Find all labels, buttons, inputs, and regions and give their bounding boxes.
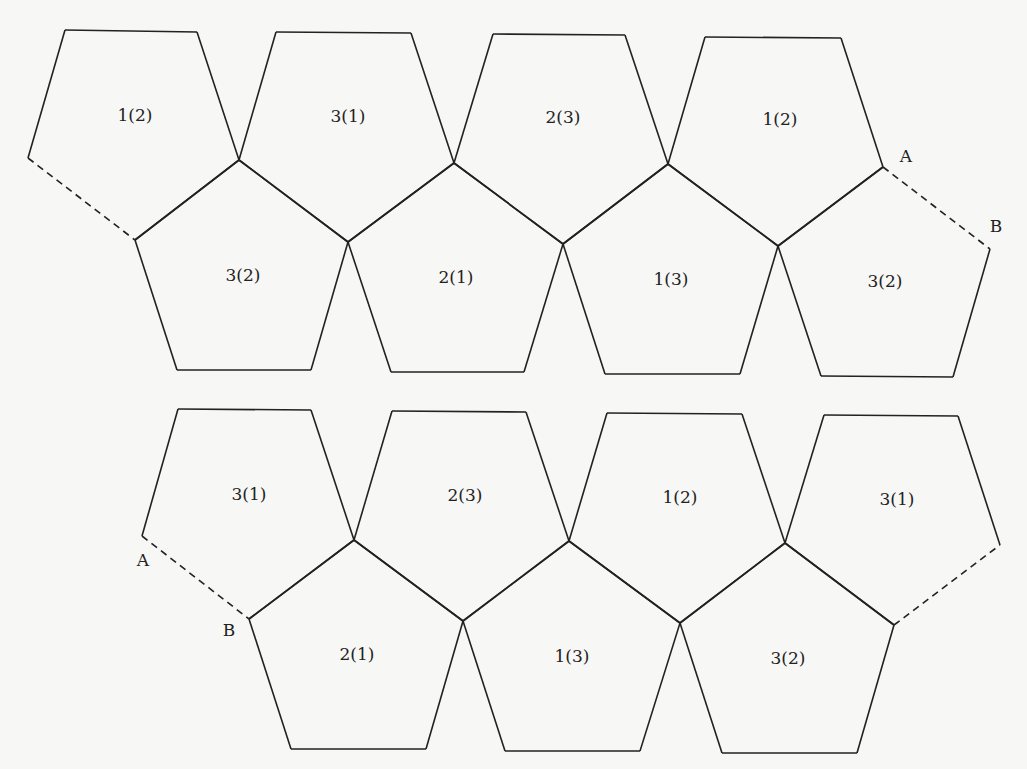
dashed-glue-edge: [142, 536, 249, 619]
bottom-net: 3(1)2(3)1(2)3(1)2(1)1(3)3(2)AB: [136, 409, 1000, 753]
pentagon-edge: [142, 409, 178, 536]
pentagon-edge: [411, 33, 454, 163]
pentagon-edge: [526, 412, 569, 541]
pentagon-edge: [392, 411, 526, 412]
pentagon-edge: [785, 415, 824, 543]
pentagon-edge: [454, 34, 493, 163]
pentagon-edge: [953, 249, 990, 377]
pentagon-edge: [348, 163, 454, 242]
pentagon-edge: [493, 34, 625, 35]
face-label: 3(2): [226, 265, 261, 285]
pentagon-edge: [841, 38, 883, 167]
pentagon-edge: [625, 35, 668, 164]
pentagon-edge: [563, 164, 668, 244]
pentagon-edge: [958, 416, 1000, 545]
pentagon-edge: [857, 625, 894, 753]
pentagon-edge: [742, 414, 785, 543]
pentagon-edge: [28, 30, 65, 158]
pentagon-edge: [705, 37, 841, 38]
pentagon-edge: [135, 240, 177, 370]
pentagon-edge: [348, 242, 391, 372]
face-label: 1(2): [118, 105, 153, 125]
dashed-glue-edge: [28, 158, 135, 240]
pentagon-edge: [563, 244, 605, 374]
pentagon-edge: [311, 242, 348, 370]
pentagon-edge: [824, 415, 958, 416]
face-label: 2(1): [340, 644, 375, 664]
pentagon-edge: [426, 621, 463, 749]
pentagon-edge: [640, 623, 680, 751]
face-label: 2(3): [546, 107, 581, 127]
pentagon-edge: [668, 164, 778, 246]
pentagon-edge: [785, 543, 894, 625]
pentagon-edge: [65, 30, 197, 32]
nets-group: 1(2)3(1)2(3)1(2)3(2)2(1)1(3)3(2)AB3(1)2(…: [28, 30, 1002, 753]
vertex-label-a: A: [136, 550, 150, 570]
pentagon-edge: [463, 541, 569, 621]
pentagon-nets-diagram: 1(2)3(1)2(3)1(2)3(2)2(1)1(3)3(2)AB3(1)2(…: [0, 0, 1027, 769]
face-label: 1(2): [763, 109, 798, 129]
pentagon-edge: [454, 163, 563, 244]
pentagon-edge: [569, 541, 680, 623]
pentagon-edge: [239, 32, 276, 160]
vertex-label-b: B: [990, 216, 1003, 236]
pentagon-edge: [607, 413, 742, 414]
face-label: 3(1): [232, 484, 267, 504]
pentagon-edge: [680, 543, 785, 623]
face-label: 1(2): [663, 487, 698, 507]
pentagon-edge: [249, 540, 354, 619]
pentagon-edge: [463, 621, 505, 751]
pentagon-edge: [178, 409, 311, 410]
pentagon-edge: [569, 413, 607, 541]
dashed-glue-edge: [894, 545, 1000, 625]
pentagon-edge: [778, 167, 883, 246]
dashed-glue-edge: [883, 167, 990, 249]
pentagon-edge: [354, 540, 463, 621]
pentagon-edge: [354, 411, 392, 540]
pentagon-edge: [311, 410, 354, 540]
face-label: 3(2): [771, 648, 806, 668]
face-label: 1(3): [555, 646, 590, 666]
pentagon-edge: [239, 160, 348, 242]
pentagon-edge: [680, 623, 722, 753]
face-label: 2(1): [439, 267, 474, 287]
pentagon-edge: [668, 37, 705, 164]
top-net: 1(2)3(1)2(3)1(2)3(2)2(1)1(3)3(2)AB: [28, 30, 1002, 377]
pentagon-edge: [249, 619, 291, 749]
vertex-label-b: B: [223, 620, 236, 640]
face-label: 3(1): [880, 489, 915, 509]
face-label: 2(3): [448, 485, 483, 505]
pentagon-edge: [135, 160, 239, 240]
pentagon-edge: [276, 32, 411, 33]
face-label: 1(3): [654, 269, 689, 289]
vertex-label-a: A: [899, 146, 913, 166]
face-label: 3(2): [868, 271, 903, 291]
pentagon-edge: [740, 246, 778, 374]
pentagon-edge: [821, 376, 953, 377]
pentagon-edge: [524, 244, 563, 372]
pentagon-edge: [197, 32, 239, 160]
face-label: 3(1): [331, 106, 366, 126]
pentagon-edge: [778, 246, 821, 376]
